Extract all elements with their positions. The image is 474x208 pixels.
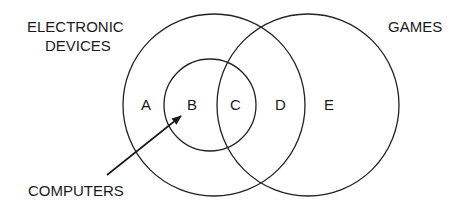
region-e: E	[324, 96, 334, 113]
games-circle	[217, 14, 399, 196]
region-a: A	[141, 96, 151, 113]
computers-arrow	[107, 116, 181, 175]
label-electronic-line2: DEVICES	[45, 37, 111, 54]
region-d: D	[275, 96, 286, 113]
region-b: B	[187, 96, 197, 113]
region-c: C	[230, 96, 241, 113]
venn-diagram: ELECTRONIC DEVICES GAMES COMPUTERS A B C…	[0, 0, 474, 208]
label-computers: COMPUTERS	[28, 182, 124, 199]
label-electronic-line1: ELECTRONIC	[27, 18, 124, 35]
label-games: GAMES	[388, 18, 442, 35]
computers-circle	[164, 59, 256, 151]
